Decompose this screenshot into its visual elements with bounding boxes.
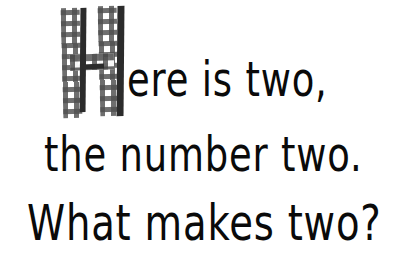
text-line-1: ere is two, [127,55,328,106]
worksheet-page: ere is two, the number two. What makes t… [0,0,396,277]
dropcap-letter-h [60,6,128,120]
dropcap-left-shadow [80,8,87,112]
text-line-3: What makes two? [27,197,382,250]
dropcap-bar-shadow [82,64,104,70]
dropcap-right-shadow [117,6,125,116]
text-line-2: the number two. [44,130,363,181]
